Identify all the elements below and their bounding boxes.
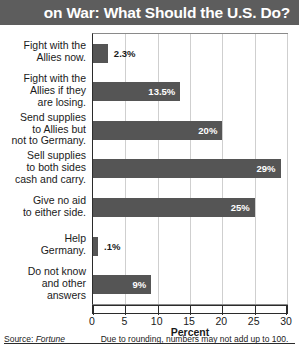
chart-title-band: on War: What Should the U.S. Do?	[0, 0, 299, 25]
category-label-line: and other	[0, 278, 86, 290]
bar-value-label: 25%	[231, 202, 250, 213]
category-label-line: Allies if they	[0, 85, 86, 97]
category-label-line: Send supplies	[0, 112, 86, 124]
bar	[93, 44, 108, 63]
category-label: Give no aidto either side.	[0, 195, 86, 219]
category-label-line: cash and carry.	[0, 174, 86, 186]
category-label: Sell suppliesto both sidescash and carry…	[0, 150, 86, 185]
axis-tick	[286, 306, 287, 315]
category-label-line: are losing.	[0, 97, 86, 109]
category-label: Fight with theAllies if theyare losing.	[0, 73, 86, 108]
x-axis-band	[92, 305, 288, 314]
bar-row: 25%	[93, 188, 287, 227]
bar: 20%	[93, 121, 222, 140]
bar-rows: 2.3%13.5%20%29%25%.1%9%	[93, 34, 287, 304]
category-axis-labels: Fight with theAllies now.Fight with theA…	[0, 33, 86, 305]
bar-value-label: 13.5%	[148, 86, 175, 97]
category-label: Send suppliesto Allies butnot to Germany…	[0, 112, 86, 147]
bar-value-label: .1%	[98, 241, 120, 252]
category-label-line: not to Germany.	[0, 135, 86, 147]
axis-tick	[255, 306, 256, 315]
plot-area: 2.3%13.5%20%29%25%.1%9%	[92, 33, 288, 305]
footer-divider	[4, 343, 295, 344]
axis-tick	[93, 306, 94, 315]
axis-tick	[125, 306, 126, 315]
bar-row: 29%	[93, 150, 287, 189]
gridline	[287, 34, 288, 304]
chart-figure: on War: What Should the U.S. Do? Fight w…	[0, 0, 299, 354]
category-label: Fight with theAllies now.	[0, 40, 86, 64]
bar: 25%	[93, 198, 255, 217]
category-label-line: Allies now.	[0, 52, 86, 64]
bar-row: 20%	[93, 111, 287, 150]
axis-tick	[222, 306, 223, 315]
category-label-line: to either side.	[0, 207, 86, 219]
bar: 9%	[93, 275, 151, 294]
category-label-line: Germany.	[0, 245, 86, 257]
bar-value-label: 20%	[198, 125, 217, 136]
category-label: Do not knowand otheranswers	[0, 266, 86, 301]
bar-value-label: 29%	[257, 163, 276, 174]
page-title: on War: What Should the U.S. Do?	[44, 4, 290, 22]
category-label-line: answers	[0, 290, 86, 302]
bar-row: 2.3%	[93, 34, 287, 73]
axis-tick	[158, 306, 159, 315]
bar-row: .1%	[93, 227, 287, 266]
category-label: HelpGermany.	[0, 233, 86, 257]
category-label-line: Give no aid	[0, 195, 86, 207]
bar-value-label: 2.3%	[108, 48, 136, 59]
bar-row: 9%	[93, 265, 287, 304]
bar: 29%	[93, 159, 281, 178]
bar: 13.5%	[93, 82, 180, 101]
bar-row: 13.5%	[93, 73, 287, 112]
bar-value-label: 9%	[132, 279, 146, 290]
axis-tick	[190, 306, 191, 315]
